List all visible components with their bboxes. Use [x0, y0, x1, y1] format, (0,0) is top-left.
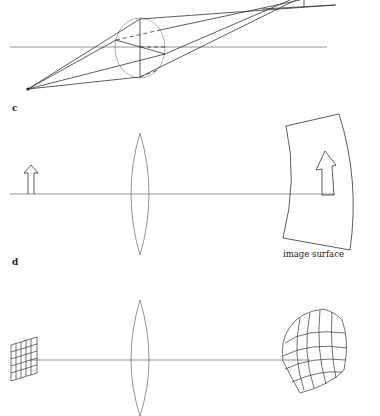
- object-arrow-icon: [24, 165, 38, 194]
- panel-label-d: d: [12, 257, 18, 267]
- lens-d: [131, 300, 149, 416]
- ray-1-out: [140, 5, 335, 19]
- image-surface-caption: image surface: [283, 249, 344, 259]
- panel-b-ray-diagram: [10, 0, 336, 91]
- optics-diagram: [0, 0, 380, 416]
- lens-dashed-upper: [116, 30, 160, 40]
- panel-label-c: c: [12, 103, 17, 113]
- ray-3-in: [28, 54, 165, 89]
- panel-c-field-curvature: [10, 114, 353, 255]
- image-surface: [283, 114, 353, 250]
- ray-4-out: [140, 0, 296, 77]
- image-arrow-icon: [316, 151, 336, 195]
- distorted-image-grid: [282, 309, 347, 393]
- object-grid: [11, 337, 37, 381]
- panel-d-distortion: [11, 300, 347, 416]
